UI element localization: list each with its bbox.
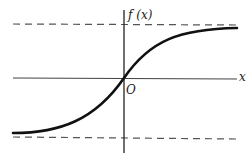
y-axis-label: f (x) xyxy=(127,8,153,22)
x-axis-label: x xyxy=(239,70,246,84)
origin-label: O xyxy=(126,83,136,97)
graph-canvas: f (x) x O xyxy=(0,0,252,164)
upper-asymptote xyxy=(13,24,238,25)
function-graph: f (x) x O xyxy=(0,0,252,164)
lower-asymptote xyxy=(13,137,238,139)
function-curve xyxy=(13,28,237,133)
